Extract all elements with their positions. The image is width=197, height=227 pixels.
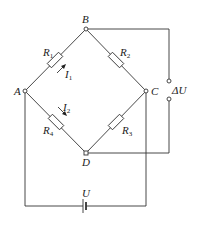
node-D [84, 151, 88, 155]
label-U: U [82, 187, 91, 199]
label-delta-U: ΔU [171, 84, 187, 96]
node-A [23, 89, 27, 93]
label-I2: I2 [62, 101, 71, 115]
terminal-output-top [167, 79, 171, 83]
label-A: A [13, 85, 21, 97]
label-R2: R2 [119, 46, 131, 60]
wire-A-supply [25, 91, 83, 206]
label-R1: R1 [42, 46, 54, 60]
resistor-R4-icon [48, 114, 64, 130]
node-C [144, 89, 148, 93]
node-B [84, 27, 88, 31]
label-R4: R4 [42, 124, 54, 138]
label-D: D [81, 156, 90, 168]
label-B: B [82, 13, 89, 25]
label-R3: R3 [121, 124, 133, 138]
label-C: C [151, 85, 159, 97]
label-I1: I1 [64, 68, 73, 82]
terminal-output-bottom [167, 97, 171, 101]
wire-C-supply [86, 91, 146, 206]
bridge-circuit-diagram: B A C D R1 R2 R3 R4 I1 I2 ΔU U [0, 0, 197, 227]
